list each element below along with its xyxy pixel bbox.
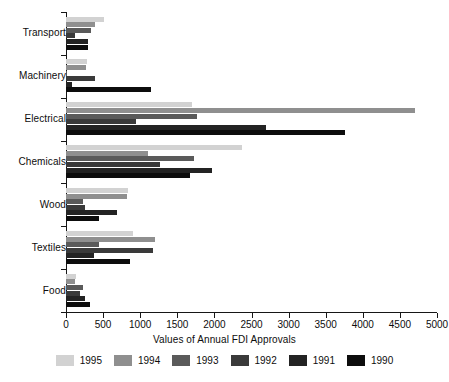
x-axis-tick xyxy=(363,313,364,318)
legend-item-1991[interactable]: 1991 xyxy=(289,355,335,366)
bar-1993-transport xyxy=(66,28,91,33)
x-axis-tick xyxy=(289,313,290,318)
legend-item-1990[interactable]: 1990 xyxy=(347,355,393,366)
y-axis-tick xyxy=(61,183,66,184)
bar xyxy=(66,210,117,215)
x-axis-tick xyxy=(252,313,253,318)
bar xyxy=(66,242,99,247)
bar xyxy=(66,87,151,92)
bar xyxy=(66,291,80,296)
category-label-textiles: Textiles xyxy=(32,242,66,253)
x-axis-tick-label: 2500 xyxy=(240,319,262,330)
bar-1992-wood xyxy=(66,205,85,210)
x-axis-tick-label: 5000 xyxy=(426,319,448,330)
bar-1995-chemicals xyxy=(66,145,242,150)
bar-1994-wood xyxy=(66,194,127,199)
bar-1991-machinery xyxy=(66,82,72,87)
bar-1995-food xyxy=(66,274,76,279)
bar xyxy=(66,156,194,161)
legend-item-1992[interactable]: 1992 xyxy=(231,355,277,366)
bar-1992-textiles xyxy=(66,248,153,253)
bar-1992-food xyxy=(66,291,80,296)
bar xyxy=(66,108,415,113)
bar xyxy=(66,102,192,107)
category-label-transport: Transport xyxy=(23,27,66,38)
bar-1994-transport xyxy=(66,22,95,27)
bar xyxy=(66,253,94,258)
bar xyxy=(66,151,148,156)
bar-1995-textiles xyxy=(66,231,133,236)
legend-item-1993[interactable]: 1993 xyxy=(172,355,218,366)
legend-swatch-1995 xyxy=(56,355,74,366)
x-axis-tick-label: 3500 xyxy=(315,319,337,330)
bar xyxy=(66,76,95,81)
x-axis-tick xyxy=(66,313,67,318)
bar xyxy=(66,71,67,76)
bar xyxy=(66,22,95,27)
bar xyxy=(66,162,160,167)
bar xyxy=(66,59,87,64)
category-label-chemicals: Chemicals xyxy=(18,156,66,167)
legend-label-1994: 1994 xyxy=(138,355,160,366)
legend-item-1995[interactable]: 1995 xyxy=(56,355,102,366)
bar-1991-electrical xyxy=(66,125,266,130)
bar-1992-transport xyxy=(66,33,75,38)
bar-group-food xyxy=(66,274,437,308)
bar-group-wood xyxy=(66,188,437,222)
legend-label-1990: 1990 xyxy=(371,355,393,366)
bar-1990-transport xyxy=(66,45,88,50)
x-axis-tick xyxy=(400,313,401,318)
bar xyxy=(66,279,75,284)
y-axis-tick xyxy=(61,12,66,13)
bar xyxy=(66,248,153,253)
x-axis-tick-label: 4000 xyxy=(352,319,374,330)
bar xyxy=(66,119,136,124)
legend-swatch-1991 xyxy=(289,355,307,366)
y-axis-tick xyxy=(61,269,66,270)
legend-item-1994[interactable]: 1994 xyxy=(114,355,160,366)
bar-1994-chemicals xyxy=(66,151,148,156)
bar xyxy=(66,45,88,50)
bar xyxy=(66,33,75,38)
bar-1990-wood xyxy=(66,216,99,221)
legend-swatch-1994 xyxy=(114,355,132,366)
bar-1991-food xyxy=(66,296,85,301)
x-axis-tick-label: 1000 xyxy=(129,319,151,330)
bar xyxy=(66,194,127,199)
bar-1991-chemicals xyxy=(66,168,212,173)
chart-legend: 199519941993199219911990 xyxy=(0,355,449,366)
bar xyxy=(66,296,85,301)
bar-1990-chemicals xyxy=(66,173,190,178)
fdi-approvals-bar-chart: TransportMachineryElectricalChemicalsWoo… xyxy=(0,0,449,382)
x-axis-tick xyxy=(437,313,438,318)
bar-1993-food xyxy=(66,285,83,290)
bar-1990-electrical xyxy=(66,130,345,135)
bar-1994-textiles xyxy=(66,237,155,242)
bar xyxy=(66,65,86,70)
bar xyxy=(66,302,90,307)
plot-area xyxy=(66,12,437,312)
bar-1990-food xyxy=(66,302,90,307)
bar-group-chemicals xyxy=(66,145,437,179)
bar xyxy=(66,199,83,204)
x-axis-tick-label: 4500 xyxy=(389,319,411,330)
bar xyxy=(66,168,212,173)
legend-swatch-1990 xyxy=(347,355,365,366)
bar-1992-chemicals xyxy=(66,162,160,167)
bar xyxy=(66,114,197,119)
bar xyxy=(66,216,99,221)
bar-1991-transport xyxy=(66,39,88,44)
bar-1993-textiles xyxy=(66,242,99,247)
bar-1994-electrical xyxy=(66,108,415,113)
category-label-wood: Wood xyxy=(40,199,66,210)
legend-swatch-1992 xyxy=(231,355,249,366)
bar xyxy=(66,125,266,130)
bar-1995-electrical xyxy=(66,102,192,107)
legend-label-1991: 1991 xyxy=(313,355,335,366)
x-axis-tick xyxy=(177,313,178,318)
bar-group-machinery xyxy=(66,59,437,93)
bar xyxy=(66,188,128,193)
bar xyxy=(66,285,83,290)
x-axis-tick-label: 500 xyxy=(95,319,112,330)
bar-1995-transport xyxy=(66,17,104,22)
